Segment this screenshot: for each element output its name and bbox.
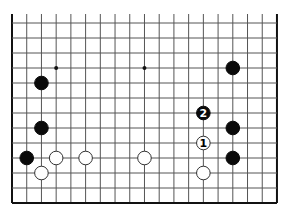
white-stone: 1 xyxy=(197,136,211,150)
white-stone xyxy=(138,151,152,165)
star-point xyxy=(54,66,58,70)
white-stone xyxy=(49,151,63,165)
black-stone xyxy=(226,61,240,75)
board-grid xyxy=(12,14,277,203)
black-stone xyxy=(20,151,34,165)
white-stone xyxy=(35,166,49,180)
move-number-label: 2 xyxy=(200,107,208,120)
go-board: 21 xyxy=(0,0,287,216)
black-stone xyxy=(35,121,49,135)
white-stone xyxy=(197,166,211,180)
move-number-label: 1 xyxy=(200,137,208,150)
star-point xyxy=(142,66,146,70)
black-stone xyxy=(226,151,240,165)
black-stone: 2 xyxy=(197,106,211,120)
black-stone xyxy=(226,121,240,135)
black-stone xyxy=(35,76,49,90)
white-stone xyxy=(79,151,93,165)
